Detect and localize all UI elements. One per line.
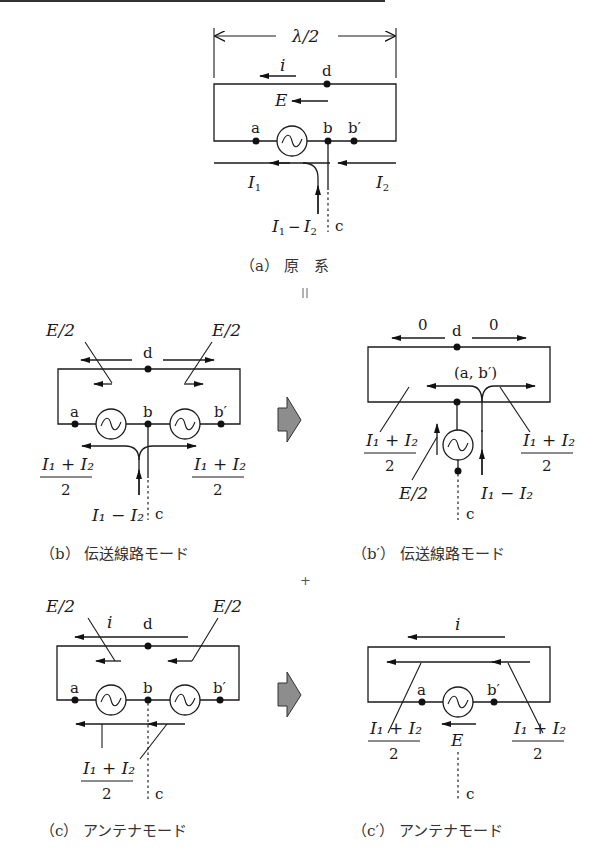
svg-text:2: 2 (389, 745, 399, 763)
label-i: i (455, 614, 460, 634)
label-diff: I₁ − I₂ (480, 483, 533, 503)
node-b-prime (351, 138, 358, 145)
label-b: b (323, 119, 333, 137)
label-c: c (155, 785, 163, 803)
svg-text:2: 2 (533, 745, 543, 763)
label-i: i (107, 612, 112, 632)
label-sum-right: I₁ + I₂ (522, 430, 575, 450)
plus-operator: + (300, 573, 311, 588)
transform-arrow-b (278, 397, 301, 442)
svg-text:2: 2 (385, 457, 395, 475)
label-d: d (143, 615, 153, 633)
label-a: a (70, 679, 79, 697)
label-E: E (450, 730, 464, 750)
node-d (324, 81, 331, 88)
width-label: λ/2 (291, 26, 319, 46)
panel-c-antenna-mode: E/2 E/2 i d a b b′ c I₁ + I₂ 2 （c） アンテナモ… (40, 596, 242, 840)
label-I1: I1 (247, 172, 261, 193)
label-d: d (143, 344, 153, 362)
label-I2: I2 (375, 172, 389, 193)
panel-c-prime-antenna-mode: i a b′ E c I₁ + I₂ 2 I₁ + I₂ 2 （c′） アンテナ… (352, 614, 566, 840)
transform-arrow-c (278, 672, 301, 717)
label-a-b-prime: (a, b′) (454, 364, 497, 382)
label-d: d (452, 322, 462, 340)
label-c: c (466, 505, 474, 523)
panel-b-transmission-line-mode: E/2 E/2 d a b b′ c I₁ + I₂ 2 I₁ + I₂ 2 (40, 320, 246, 563)
label-b: b (143, 403, 153, 421)
caption-b-prime: （b′） 伝送線路モード (352, 545, 505, 563)
svg-text:2: 2 (542, 457, 552, 475)
caption-a: （a） 原 系 (240, 257, 329, 275)
label-c: c (155, 505, 163, 523)
dipole-mode-decomposition-diagram: λ/2 i d E a b b′ c I1 I2 I1−I2 （a） 原 系 (0, 0, 593, 862)
label-sum: I₁ + I₂ (82, 758, 135, 778)
label-zero-left: 0 (418, 316, 428, 334)
caption-c-prime: （c′） アンテナモード (352, 822, 503, 840)
equals-operator (303, 288, 307, 298)
panel-a-original-system: λ/2 i d E a b b′ c I1 I2 I1−I2 （a） 原 系 (214, 26, 396, 275)
label-b-prime: b′ (487, 681, 501, 699)
label-E-half: E/2 (398, 483, 428, 503)
label-d: d (322, 62, 332, 80)
label-a: a (417, 681, 426, 699)
label-b-prime: b′ (348, 119, 362, 137)
current-diff-path (303, 163, 318, 214)
node-d (145, 366, 152, 373)
label-sum-left: I₁ + I₂ (369, 718, 422, 738)
label-b-prime: b′ (214, 403, 228, 421)
label-b-prime: b′ (213, 679, 227, 697)
label-E: E (274, 90, 288, 110)
label-E-half-right: E/2 (212, 596, 242, 616)
label-I1-minus-I2: I1−I2 (271, 216, 317, 237)
node-a (253, 138, 260, 145)
label-sum-right: I₁ + I₂ (193, 454, 246, 474)
caption-c: （c） アンテナモード (40, 822, 187, 840)
label-sum-left: I₁ + I₂ (365, 430, 418, 450)
label-E-half-left: E/2 (45, 320, 75, 340)
label-b: b (143, 679, 153, 697)
caption-b: （b） 伝送線路モード (40, 545, 189, 563)
label-E-half-left: E/2 (45, 596, 75, 616)
label-c: c (335, 217, 343, 235)
svg-text:2: 2 (61, 481, 71, 499)
label-c: c (466, 785, 474, 803)
label-diff: I₁ − I₂ (91, 505, 144, 525)
svg-text:2: 2 (213, 481, 223, 499)
label-sum-right: I₁ + I₂ (513, 718, 566, 738)
label-zero-right: 0 (489, 316, 499, 334)
label-i: i (280, 55, 285, 75)
label-a: a (251, 119, 260, 137)
label-a: a (70, 403, 79, 421)
svg-text:2: 2 (102, 785, 112, 803)
label-sum-left: I₁ + I₂ (41, 454, 94, 474)
panel-b-prime-transmission-line-mode: 0 0 d (a, b′) c I₁ + I₂ 2 I₁ + I₂ 2 E/2 … (352, 316, 575, 563)
label-E-half-right: E/2 (211, 320, 241, 340)
